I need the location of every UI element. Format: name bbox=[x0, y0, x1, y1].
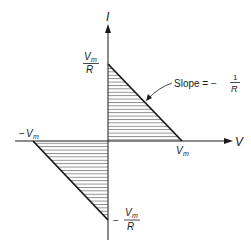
leader-arrow-line bbox=[149, 83, 172, 98]
svg-text:m: m bbox=[132, 212, 138, 219]
y-axis-label: I bbox=[106, 10, 110, 24]
svg-text:Slope = −: Slope = − bbox=[174, 78, 217, 89]
y-axis-arrow-icon bbox=[105, 24, 111, 33]
upper-intercept-label: V m R bbox=[83, 51, 99, 75]
svg-text:m: m bbox=[33, 133, 39, 140]
svg-text:1: 1 bbox=[233, 73, 238, 82]
svg-text:R: R bbox=[231, 84, 238, 94]
iv-diagram: I V V m R V m − V m − V m R bbox=[0, 0, 251, 248]
slope-annotation: Slope = − 1 R bbox=[146, 73, 240, 101]
svg-text:−: − bbox=[113, 215, 119, 226]
lower-intercept-label: − V m R bbox=[113, 207, 140, 232]
x-axis-label: V bbox=[235, 135, 244, 149]
svg-text:R: R bbox=[127, 221, 134, 232]
svg-text:m: m bbox=[183, 150, 189, 157]
right-intercept-label: V m bbox=[176, 145, 189, 157]
svg-text:−: − bbox=[19, 128, 25, 139]
left-intercept-label: − V m bbox=[19, 128, 39, 140]
svg-text:m: m bbox=[91, 56, 97, 63]
leader-arrow-icon bbox=[146, 94, 152, 101]
x-axis-arrow-icon bbox=[224, 138, 233, 144]
svg-text:R: R bbox=[86, 64, 93, 75]
